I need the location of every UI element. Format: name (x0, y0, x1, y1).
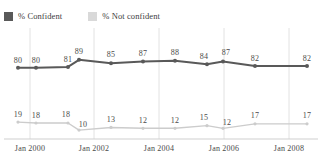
plot-svg (0, 28, 322, 140)
value-label-not-confident: 15 (200, 113, 208, 122)
value-label-confident: 88 (171, 48, 179, 57)
legend-item-confident[interactable]: % Confident (4, 11, 62, 21)
x-axis-tick-label: Jan 2006 (209, 144, 239, 153)
legend-label-not-confident: % Not confident (102, 11, 160, 21)
data-point[interactable] (109, 61, 113, 65)
x-axis-tick-label: Jan 2000 (15, 144, 45, 153)
data-point[interactable] (253, 122, 256, 125)
data-point[interactable] (16, 66, 20, 70)
data-point[interactable] (109, 126, 112, 129)
data-point[interactable] (34, 66, 38, 70)
legend-swatch-dark-icon (4, 12, 13, 21)
value-label-confident: 87 (139, 49, 147, 58)
chart-legend: % Confident % Not confident (4, 11, 160, 21)
value-label-not-confident: 12 (171, 116, 179, 125)
value-label-not-confident: 18 (32, 111, 40, 120)
value-label-confident: 82 (251, 54, 259, 63)
series-line-not-confident (18, 122, 307, 130)
value-label-confident: 81 (64, 55, 72, 64)
value-label-confident: 87 (222, 48, 230, 57)
x-axis-tick-label: Jan 2002 (79, 144, 109, 153)
value-label-not-confident: 19 (14, 110, 22, 119)
value-label-confident: 84 (200, 52, 208, 61)
legend-label-confident: % Confident (18, 11, 62, 21)
x-axis: Jan 2000Jan 2002Jan 2004Jan 2006Jan 2008 (0, 144, 322, 160)
data-point[interactable] (66, 65, 70, 69)
plot-area (0, 28, 322, 140)
value-label-not-confident: 13 (107, 115, 115, 124)
x-axis-tick-label: Jan 2008 (274, 144, 304, 153)
value-label-not-confident: 17 (303, 111, 311, 120)
legend-swatch-light-icon (88, 12, 97, 21)
value-label-confident: 85 (107, 50, 115, 59)
data-point[interactable] (205, 124, 208, 127)
value-label-confident: 80 (32, 56, 40, 65)
data-point[interactable] (77, 58, 81, 62)
value-label-not-confident: 12 (223, 118, 231, 127)
data-point[interactable] (141, 127, 144, 130)
value-label-not-confident: 10 (79, 120, 87, 129)
data-point[interactable] (305, 122, 308, 125)
data-point[interactable] (34, 121, 37, 124)
data-point[interactable] (253, 64, 257, 68)
data-point[interactable] (173, 59, 177, 63)
value-label-confident: 80 (14, 56, 22, 65)
data-point[interactable] (173, 127, 176, 130)
legend-item-not-confident[interactable]: % Not confident (88, 11, 160, 21)
value-label-not-confident: 18 (62, 110, 70, 119)
data-point[interactable] (141, 60, 145, 64)
value-label-confident: 89 (75, 47, 83, 56)
series-line-confident (18, 60, 307, 68)
data-point[interactable] (66, 121, 69, 124)
chart-container: % Confident % Not confident 808081898587… (0, 0, 322, 164)
value-label-not-confident: 12 (139, 116, 147, 125)
value-label-confident: 82 (303, 54, 311, 63)
data-point[interactable] (305, 64, 309, 68)
data-point[interactable] (221, 60, 225, 64)
x-axis-tick-label: Jan 2004 (144, 144, 174, 153)
data-point[interactable] (16, 120, 19, 123)
data-point[interactable] (205, 62, 209, 66)
value-label-not-confident: 17 (251, 111, 259, 120)
